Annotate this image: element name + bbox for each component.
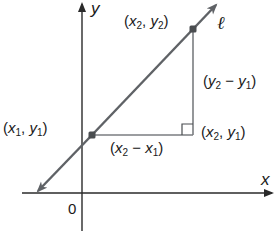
sym: y (208, 72, 216, 89)
diagram-graphics (0, 0, 279, 231)
point-p2 (190, 26, 197, 33)
coordinate-diagram: y x 0 ℓ (x2, y2) (y2 − y1) (x1, y1) (x2 … (0, 0, 279, 231)
rise-label: (y2 − y1) (203, 73, 256, 91)
paren-close: ) (240, 123, 245, 140)
sym: x (8, 119, 16, 136)
x-axis-label: x (261, 171, 270, 188)
sym: x (206, 123, 214, 140)
sym: y (238, 72, 246, 89)
sym: x (115, 139, 123, 156)
line-l (38, 135, 92, 191)
paren-close: ) (42, 119, 47, 136)
sym: x (145, 139, 153, 156)
origin-label: 0 (68, 201, 76, 216)
point-p1-label: (x1, y1) (3, 120, 47, 138)
point-p2-label: (x2, y2) (124, 13, 168, 31)
right-angle-marker (182, 124, 193, 135)
paren-close: ) (158, 139, 163, 156)
y-axis-label: y (91, 0, 100, 17)
sym: y (150, 12, 158, 29)
sym: y (29, 119, 37, 136)
paren-close: ) (251, 72, 256, 89)
minus: − (225, 72, 234, 89)
line-label: ℓ (217, 14, 225, 32)
sym: x (129, 12, 137, 29)
sym: y (227, 123, 235, 140)
corner-point-label: (x2, y1) (201, 124, 245, 142)
point-p1 (89, 132, 96, 139)
run-label: (x2 − x1) (110, 140, 163, 158)
minus: − (132, 139, 141, 156)
paren-close: ) (163, 12, 168, 29)
